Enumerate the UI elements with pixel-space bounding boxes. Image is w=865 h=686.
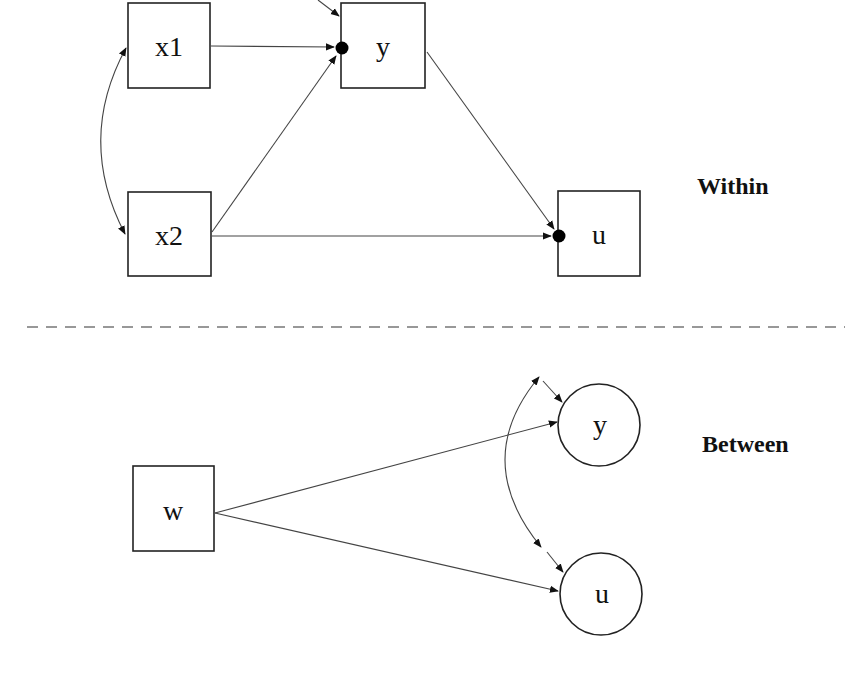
node-w-label: w bbox=[163, 495, 184, 526]
node-u-label: u bbox=[592, 219, 606, 250]
between-label: Between bbox=[702, 431, 789, 457]
within-level: x1 y x2 u Within bbox=[101, 0, 769, 276]
path-diagram: x1 y x2 u Within w bbox=[0, 0, 865, 686]
edge-w-to-u bbox=[215, 513, 558, 591]
node-y-between: y bbox=[558, 384, 640, 466]
random-intercept-dot-u bbox=[553, 230, 566, 243]
within-label: Within bbox=[697, 173, 769, 199]
node-y-between-label: y bbox=[593, 409, 607, 440]
node-y: y bbox=[336, 3, 426, 88]
edge-x2-to-y bbox=[212, 56, 336, 232]
node-u-between-label: u bbox=[595, 578, 609, 609]
node-x2-label: x2 bbox=[155, 220, 183, 251]
residual-arrow-y bbox=[318, 0, 339, 16]
residual-arrow-u-between bbox=[547, 552, 563, 572]
node-u: u bbox=[553, 191, 641, 276]
between-level: w y u Between bbox=[133, 377, 789, 635]
covariance-x1-x2 bbox=[101, 48, 126, 234]
node-x1: x1 bbox=[128, 3, 210, 88]
covariance-y-u-between bbox=[505, 377, 541, 547]
random-intercept-dot-y bbox=[336, 42, 349, 55]
node-w: w bbox=[133, 466, 214, 551]
node-y-label: y bbox=[376, 31, 390, 62]
edge-y-to-u bbox=[427, 52, 554, 229]
node-x2: x2 bbox=[128, 192, 211, 276]
residual-arrow-y-between bbox=[543, 381, 562, 402]
node-x1-label: x1 bbox=[155, 31, 183, 62]
node-u-between: u bbox=[560, 553, 642, 635]
edge-x1-to-y bbox=[211, 46, 334, 47]
